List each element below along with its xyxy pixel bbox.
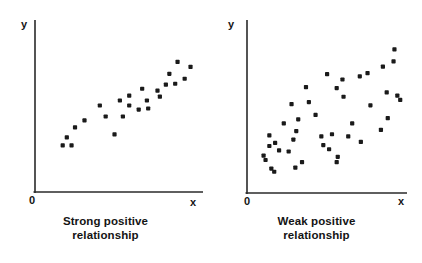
data-point: [127, 94, 131, 98]
data-point: [359, 140, 363, 144]
data-point: [391, 59, 395, 63]
data-point: [188, 65, 192, 69]
data-point: [146, 106, 150, 110]
data-point: [293, 165, 297, 169]
data-point: [381, 65, 385, 69]
data-point: [112, 132, 116, 136]
data-point: [358, 74, 362, 78]
data-point: [167, 72, 171, 76]
data-point: [263, 158, 267, 162]
data-point: [287, 149, 291, 153]
x-axis-label: x: [398, 196, 404, 207]
data-point: [336, 155, 340, 159]
data-point: [267, 133, 271, 137]
data-point: [137, 107, 141, 111]
data-point: [350, 121, 354, 125]
data-point: [307, 100, 311, 104]
data-point: [340, 77, 344, 81]
data-point: [145, 98, 149, 102]
data-point: [273, 141, 277, 145]
data-point: [379, 128, 383, 132]
data-point: [365, 71, 369, 75]
data-point: [346, 134, 350, 138]
data-point: [395, 94, 399, 98]
axes-strong-positive: [34, 20, 204, 193]
data-point: [173, 82, 177, 86]
caption-line-1: Weak positive: [278, 215, 356, 227]
data-point: [267, 144, 271, 148]
data-point: [291, 137, 295, 141]
data-point: [261, 154, 265, 158]
data-point: [183, 77, 187, 81]
x-axis-label: x: [190, 197, 196, 208]
plot-strong-positive: [0, 0, 211, 215]
origin-label: 0: [244, 196, 250, 207]
data-point: [104, 114, 108, 118]
data-point: [98, 103, 102, 107]
data-point: [327, 147, 331, 151]
data-points-strong-positive: [61, 60, 193, 148]
data-point: [313, 113, 317, 117]
data-point: [341, 95, 345, 99]
data-point: [61, 143, 65, 147]
data-point: [118, 98, 122, 102]
panel-caption: Strong positive relationship: [0, 214, 211, 242]
data-point: [272, 170, 276, 174]
data-point: [140, 87, 144, 91]
data-point: [368, 103, 372, 107]
plot-weak-positive: [211, 0, 422, 215]
data-point: [282, 121, 286, 125]
data-point: [325, 72, 329, 76]
data-point: [304, 85, 308, 89]
y-axis-label: y: [21, 19, 27, 30]
data-point: [398, 98, 402, 102]
data-point: [335, 86, 339, 90]
data-point: [277, 148, 281, 152]
origin-label: 0: [29, 195, 35, 206]
data-point: [69, 143, 73, 147]
panel-strong-positive: y 0 x Strong positive relationship: [0, 0, 211, 263]
panel-weak-positive: y 0 x Weak positive relationship: [211, 0, 422, 263]
data-point: [121, 114, 125, 118]
data-point: [155, 89, 159, 93]
data-point: [73, 125, 77, 129]
scatterplot-figure: y 0 x Strong positive relationship y 0 x…: [0, 0, 422, 263]
data-point: [319, 134, 323, 138]
data-point: [300, 160, 304, 164]
data-point: [296, 117, 300, 121]
data-point: [335, 160, 339, 164]
caption-line-1: Strong positive: [63, 215, 148, 227]
data-point: [65, 135, 69, 139]
data-points-weak-positive: [261, 47, 402, 174]
data-point: [164, 83, 168, 87]
data-point: [175, 60, 179, 64]
y-axis-label: y: [228, 19, 234, 30]
data-point: [385, 90, 389, 94]
caption-line-2: relationship: [211, 228, 422, 242]
data-point: [82, 118, 86, 122]
data-point: [127, 103, 131, 107]
data-point: [158, 94, 162, 98]
data-point: [289, 102, 293, 106]
data-point: [386, 116, 390, 120]
data-point: [392, 47, 396, 51]
panel-caption: Weak positive relationship: [211, 214, 422, 242]
data-point: [294, 129, 298, 133]
data-point: [321, 143, 325, 147]
caption-line-2: relationship: [0, 228, 211, 242]
data-point: [330, 132, 334, 136]
